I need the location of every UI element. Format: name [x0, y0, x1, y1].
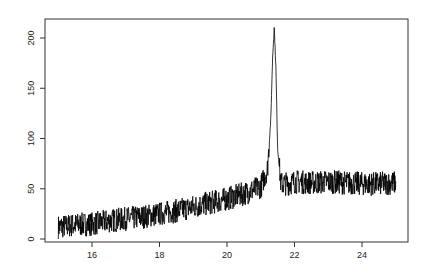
x-axis: 1618202224 — [87, 242, 367, 260]
x-tick-label: 24 — [357, 250, 367, 260]
x-tick-label: 22 — [289, 250, 299, 260]
y-tick-label: 50 — [26, 184, 36, 194]
data-line — [58, 28, 395, 240]
x-tick-label: 20 — [222, 250, 232, 260]
plot-frame — [45, 19, 408, 242]
chart: 050100150200 1618202224 — [0, 0, 429, 276]
y-tick-label: 150 — [26, 81, 36, 96]
y-tick-label: 200 — [26, 30, 36, 45]
x-tick-label: 18 — [154, 250, 164, 260]
x-tick-label: 16 — [87, 250, 97, 260]
y-tick-label: 0 — [26, 236, 36, 241]
y-axis: 050100150200 — [26, 30, 45, 241]
y-tick-label: 100 — [26, 131, 36, 146]
